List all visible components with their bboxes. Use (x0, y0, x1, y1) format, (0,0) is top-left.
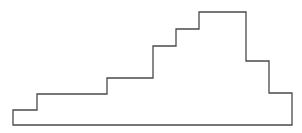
stepped-polygon (13, 12, 292, 125)
stepped-outline-shape (0, 0, 302, 133)
diagram-canvas (0, 0, 302, 133)
